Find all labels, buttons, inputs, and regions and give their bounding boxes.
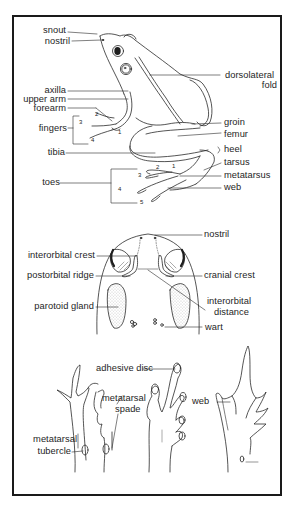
label-fingers: fingers <box>20 123 67 133</box>
label-tibia: tibia <box>20 147 65 157</box>
toe-number-1: 1 <box>172 161 175 171</box>
side-view-frog <box>90 34 214 202</box>
toe-number-4: 4 <box>118 184 121 194</box>
foot-right-webbed <box>216 346 268 472</box>
label-postorbital-ridge: postorbital ridge <box>16 270 94 280</box>
label-interorbital-distance-line1: interorbital <box>207 296 251 306</box>
label-adhesive-disc: adhesive disc <box>96 363 153 373</box>
label-nostril: nostril <box>28 36 70 46</box>
label-cranial-crest: cranial crest <box>204 270 255 280</box>
finger-number-1: 1 <box>118 127 121 137</box>
finger-number-3: 3 <box>79 117 82 127</box>
head-dorsal-view <box>97 234 199 334</box>
label-dorsolateral-fold-line2: fold <box>225 80 277 90</box>
label-heel: heel <box>224 144 242 154</box>
finger-number-4: 4 <box>91 135 94 145</box>
finger-number-2: 2 <box>95 109 98 119</box>
label-wart: wart <box>205 322 223 332</box>
label-forearm: forearm <box>14 103 66 113</box>
label-femur: femur <box>224 129 248 139</box>
label-metatarsal-tubercle-line2: tubercle <box>24 446 71 456</box>
label-snout: snout <box>28 25 66 35</box>
label-foot-web: web <box>192 396 209 406</box>
label-groin: groin <box>224 117 245 127</box>
foot-center-adhesive <box>147 363 186 472</box>
label-interorbital-crest: interorbital crest <box>16 250 95 260</box>
label-metatarsus: metatarsus <box>224 170 271 180</box>
label-metatarsal-tubercle-line1: metatarsal <box>24 434 77 444</box>
toe-number-5: 5 <box>140 197 143 207</box>
label-metatarsal-spade-line2: spade <box>115 404 141 414</box>
label-head-nostril: nostril <box>204 229 229 239</box>
label-parotoid-gland: parotoid gland <box>16 301 94 311</box>
label-tarsus: tarsus <box>224 157 250 167</box>
toe-number-3: 3 <box>138 170 141 180</box>
label-toes: toes <box>20 177 60 187</box>
toe-number-2: 2 <box>156 162 159 172</box>
label-metatarsal-spade-line1: metatarsal <box>102 393 146 403</box>
label-interorbital-distance-line2: distance <box>207 307 249 317</box>
label-dorsolateral-fold-line1: dorsolateral <box>225 70 274 80</box>
label-web: web <box>224 182 241 192</box>
